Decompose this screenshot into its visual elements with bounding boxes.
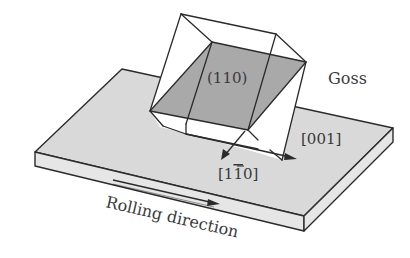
plane-label: (110) bbox=[207, 69, 247, 87]
overbar-digit: 1 bbox=[233, 165, 243, 183]
goss-texture-diagram: (110) Goss [001] [110] Rolling direction bbox=[0, 0, 410, 258]
direction-001-label: [001] bbox=[301, 130, 341, 148]
texture-name-label: Goss bbox=[328, 69, 367, 88]
direction-1-10-label: [110] bbox=[218, 165, 258, 183]
